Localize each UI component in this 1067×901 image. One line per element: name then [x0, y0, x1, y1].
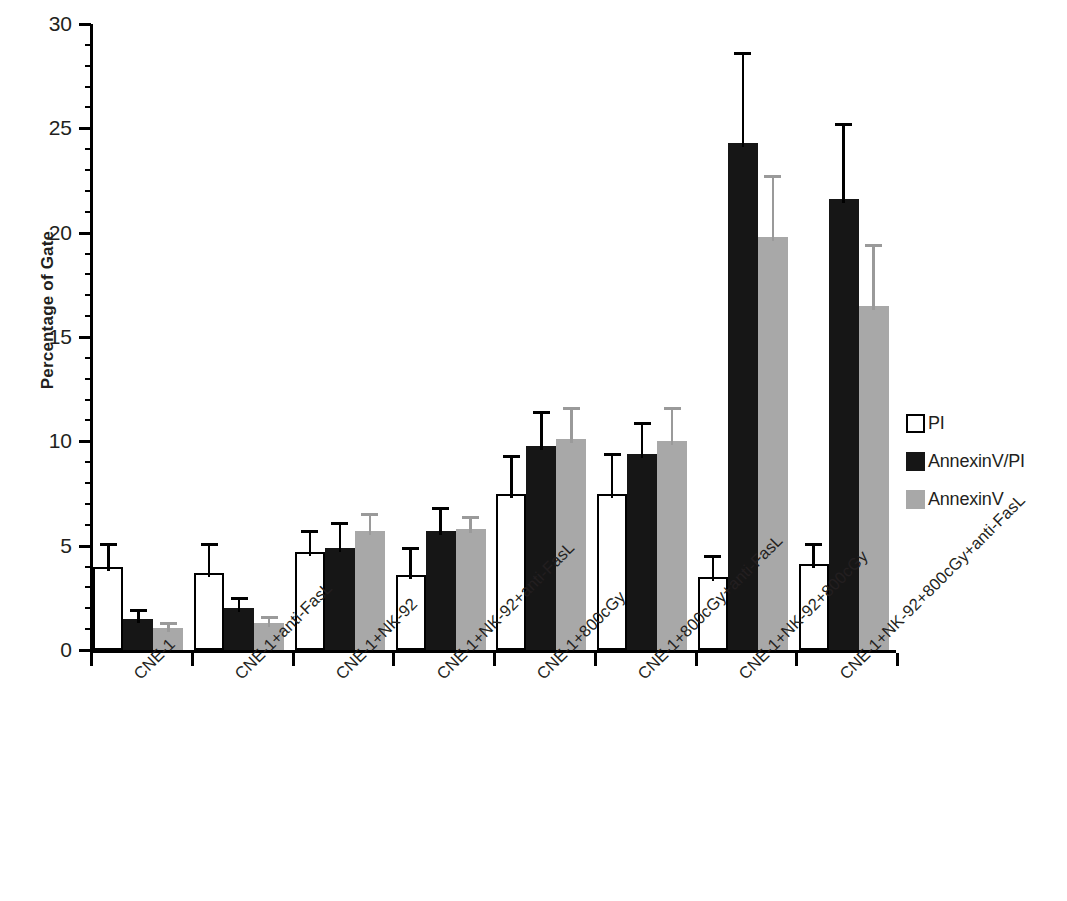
bar-chart-figure: Percentage of Gate 051015202530 CNE-1CNE…	[0, 0, 1067, 901]
legend-label-annexinv: AnnexinV	[928, 489, 1003, 510]
error-bar-cap	[301, 530, 318, 533]
error-bar-cap	[533, 411, 550, 414]
error-bar-stem	[238, 600, 241, 612]
bar-group	[695, 24, 796, 650]
bar-group	[90, 24, 191, 650]
error-bar-cap	[402, 547, 419, 550]
bar-group	[191, 24, 292, 650]
error-bar-stem	[369, 516, 372, 535]
legend-swatch-annexinv-pi-icon	[906, 452, 925, 471]
legend-label-annexinv-pi: AnnexinV/PI	[928, 451, 1025, 472]
error-bar-cap	[231, 597, 248, 600]
legend-swatch-annexinv-icon	[906, 490, 925, 509]
bar-annexinv-pi	[325, 548, 355, 650]
bar-group	[392, 24, 493, 650]
legend-item-annexinv: AnnexinV	[906, 480, 1066, 518]
x-axis-tick	[795, 653, 798, 666]
error-bar-stem	[208, 546, 211, 577]
y-axis-tick-label: 20	[28, 222, 72, 243]
x-axis-tick	[594, 653, 597, 666]
y-axis-tick-label: 25	[28, 117, 72, 138]
error-bar-stem	[742, 55, 745, 147]
error-bar-cap	[704, 555, 721, 558]
error-bar-cap	[734, 52, 751, 55]
y-axis-tick-label: 30	[28, 13, 72, 34]
legend-label-pi: PI	[928, 413, 945, 434]
error-bar-cap	[462, 516, 479, 519]
error-bar-stem	[872, 247, 875, 309]
bar-group	[292, 24, 393, 650]
legend: PI AnnexinV/PI AnnexinV	[906, 404, 1066, 518]
bar-annexinv-pi	[426, 531, 456, 650]
bar-annexinv-pi	[123, 619, 153, 650]
x-axis-tick	[493, 653, 496, 666]
bar-annexinv	[758, 237, 788, 650]
y-axis-title: Percentage of Gate	[38, 180, 58, 440]
legend-swatch-pi-icon	[906, 414, 925, 433]
x-axis-tick	[191, 653, 194, 666]
error-bar-cap	[331, 522, 348, 525]
error-bar-cap	[634, 422, 651, 425]
error-bar-stem	[137, 612, 140, 622]
error-bar-stem	[510, 458, 513, 497]
error-bar-stem	[611, 456, 614, 498]
error-bar-cap	[201, 543, 218, 546]
error-bar-stem	[712, 558, 715, 581]
error-bar-cap	[432, 507, 449, 510]
error-bar-stem	[641, 425, 644, 458]
bar-annexinv-pi	[224, 608, 254, 650]
legend-item-pi: PI	[906, 404, 1066, 442]
error-bar-cap	[865, 244, 882, 247]
error-bar-stem	[107, 546, 110, 571]
x-axis-tick	[90, 653, 93, 666]
bar-annexinv	[859, 306, 889, 650]
error-bar-stem	[671, 410, 674, 445]
error-bar-stem	[309, 533, 312, 556]
error-bar-cap	[764, 175, 781, 178]
legend-item-annexinv-pi: AnnexinV/PI	[906, 442, 1066, 480]
error-bar-cap	[361, 513, 378, 516]
error-bar-stem	[339, 525, 342, 552]
bar-annexinv-pi	[627, 454, 657, 650]
y-axis-tick-label: 0	[28, 639, 72, 660]
error-bar-stem	[772, 178, 775, 240]
error-bar-stem	[409, 550, 412, 579]
x-axis-tick	[896, 653, 899, 666]
bar-pi	[93, 567, 123, 650]
x-axis-tick	[292, 653, 295, 666]
error-bar-stem	[842, 126, 845, 203]
bar-pi	[194, 573, 224, 650]
plot-area	[90, 24, 896, 650]
error-bar-stem	[439, 510, 442, 535]
bar-group	[493, 24, 594, 650]
bar-group	[795, 24, 896, 650]
x-axis-tick	[392, 653, 395, 666]
bar-annexinv-pi	[526, 446, 556, 650]
error-bar-stem	[540, 414, 543, 449]
error-bar-cap	[604, 453, 621, 456]
y-axis-tick-label: 15	[28, 326, 72, 347]
error-bar-cap	[664, 407, 681, 410]
error-bar-cap	[100, 543, 117, 546]
error-bar-cap	[130, 609, 147, 612]
error-bar-cap	[160, 622, 177, 625]
bar-group	[594, 24, 695, 650]
y-axis-tick-label: 5	[28, 535, 72, 556]
error-bar-stem	[812, 546, 815, 569]
y-axis-tick-label: 10	[28, 430, 72, 451]
x-axis-tick	[695, 653, 698, 666]
error-bar-cap	[835, 123, 852, 126]
error-bar-stem	[268, 619, 271, 627]
error-bar-cap	[563, 407, 580, 410]
error-bar-stem	[167, 625, 170, 632]
error-bar-cap	[503, 455, 520, 458]
error-bar-cap	[805, 543, 822, 546]
error-bar-stem	[469, 519, 472, 533]
error-bar-stem	[570, 410, 573, 443]
error-bar-cap	[261, 616, 278, 619]
bar-annexinv	[657, 441, 687, 650]
